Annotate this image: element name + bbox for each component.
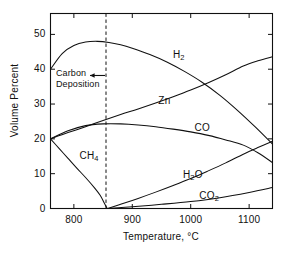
y-tick-label: 40 bbox=[20, 63, 46, 74]
chart-figure: Volume Percent Temperature, °C 504030201… bbox=[0, 0, 287, 259]
data-curves bbox=[51, 41, 273, 208]
y-tick-label: 10 bbox=[20, 168, 46, 179]
x-axis-title: Temperature, °C bbox=[81, 231, 241, 242]
y-tick-label: 50 bbox=[20, 28, 46, 39]
y-tick-label: 20 bbox=[20, 133, 46, 144]
curve-label-h2o: H2O bbox=[183, 169, 203, 180]
x-tick-label: 900 bbox=[112, 214, 152, 225]
y-tick-label: 0 bbox=[20, 203, 46, 214]
x-tick-label: 1100 bbox=[229, 214, 269, 225]
carbon-deposition-annotation: Carbon Deposition bbox=[56, 68, 100, 89]
y-tick-label: 30 bbox=[20, 98, 46, 109]
x-tick-label: 800 bbox=[54, 214, 94, 225]
curve-label-zn: Zn bbox=[158, 95, 170, 106]
annotation-line-2: Deposition bbox=[56, 79, 100, 90]
y-axis-title: Volume Percent bbox=[9, 56, 20, 146]
curve-label-co2: CO2 bbox=[199, 190, 219, 201]
curve-label-ch4: CH4 bbox=[79, 150, 98, 161]
x-tick-label: 1000 bbox=[171, 214, 211, 225]
curve-h2 bbox=[51, 41, 273, 144]
annotation-line-1: Carbon bbox=[56, 68, 100, 79]
curve-label-h2: H2 bbox=[173, 49, 185, 60]
curve-label-co: CO bbox=[195, 122, 210, 133]
